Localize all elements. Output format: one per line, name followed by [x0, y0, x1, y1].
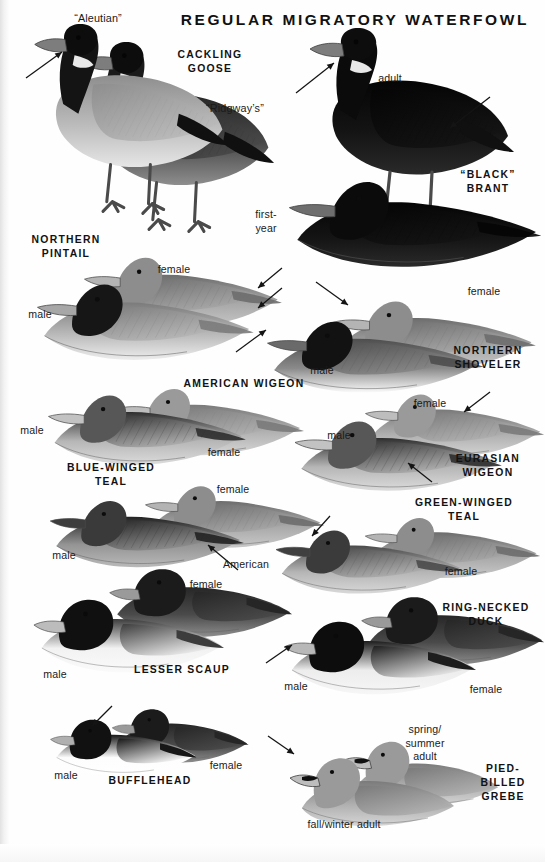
- species-label-lesser-scaup: LESSER SCAUP: [112, 663, 252, 677]
- annotation-euwigeon-female: female: [404, 397, 456, 411]
- species-label-green-winged-teal: GREEN-WINGED TEAL: [396, 496, 532, 524]
- species-label-cackling-goose: CACKLING GOOSE: [155, 48, 265, 76]
- annotation-gwteal-american: American: [214, 558, 278, 572]
- annotation-grebe-spring-summer: spring/ summer adult: [394, 723, 456, 764]
- annotation-grebe-fall-winter: fall/winter adult: [290, 818, 398, 832]
- species-label-northern-shoveler: NORTHERN SHOVELER: [434, 344, 542, 372]
- annotation-bufflehead-female: female: [200, 759, 252, 773]
- annotation-rnduck-female: female: [460, 683, 512, 697]
- page-title: REGULAR MIGRATORY WATERFOWL: [181, 10, 529, 30]
- species-label-ring-necked-duck: RING-NECKED DUCK: [430, 601, 542, 629]
- species-label-blue-winged-teal: BLUE-WINGED TEAL: [46, 461, 176, 489]
- waterfowl-plate: CACKLING GOOSE“BLACK” BRANTNORTHERN PINT…: [0, 0, 545, 862]
- annotation-aleutian: “Aleutian”: [58, 12, 138, 26]
- annotation-euwigeon-male: male: [317, 429, 361, 443]
- annotation-rnduck-male: male: [274, 680, 318, 694]
- species-label-pied-billed-grebe: PIED- BILLED GREBE: [466, 762, 540, 804]
- annotation-scaup-female: female: [180, 578, 232, 592]
- annotation-amwigeon-male: male: [10, 424, 54, 438]
- annotation-ridgways: “Ridgway’s”: [190, 102, 280, 116]
- species-label-black-brant: “BLACK” BRANT: [438, 168, 538, 196]
- annotation-bwteal-female: female: [207, 483, 259, 497]
- annotation-amwigeon-female: female: [198, 446, 250, 460]
- annotation-brant-adult: adult: [364, 72, 416, 86]
- annotation-gwteal-female: female: [435, 565, 487, 579]
- annotation-bufflehead-male: male: [44, 769, 88, 783]
- species-label-northern-pintail: NORTHERN PINTAIL: [14, 233, 118, 261]
- annotation-bwteal-male: male: [42, 549, 86, 563]
- page-bottom-fade: [0, 844, 545, 862]
- annotation-brant-first-year: first- year: [243, 208, 289, 235]
- annotation-shoveler-male: male: [300, 364, 344, 378]
- annotation-shoveler-female: female: [458, 285, 510, 299]
- annotation-scaup-male: male: [33, 668, 77, 682]
- scan-gutter-shadow: [0, 0, 9, 862]
- species-label-eurasian-wigeon: EURASIAN WIGEON: [438, 452, 538, 480]
- annotation-pintail-female: female: [148, 263, 200, 277]
- species-label-bufflehead: BUFFLEHEAD: [88, 774, 212, 788]
- annotation-pintail-male: male: [18, 308, 62, 322]
- species-label-american-wigeon: AMERICAN WIGEON: [160, 377, 328, 391]
